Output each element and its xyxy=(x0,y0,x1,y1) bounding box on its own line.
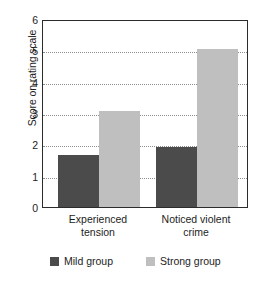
legend-label: Strong group xyxy=(160,255,221,267)
y-tick-label-0: 0 xyxy=(24,203,38,213)
y-tick-label-4: 4 xyxy=(24,78,38,88)
y-tick-label-1: 1 xyxy=(24,172,38,182)
y-tick-label-6: 6 xyxy=(24,15,38,25)
legend-swatch-strong-icon xyxy=(146,257,155,266)
bar-mild-group-1 xyxy=(58,155,99,207)
x-category-label-line: Experienced xyxy=(48,213,148,226)
y-axis-tick-labels: 0123456 xyxy=(22,20,38,208)
bar-chart-figure: Score on rating scale 0123456 Experience… xyxy=(0,0,264,281)
x-category-label-line: tension xyxy=(48,226,148,239)
legend-swatch-mild-icon xyxy=(50,257,59,266)
x-category-label-2: Noticed violentcrime xyxy=(146,213,246,238)
x-category-label-line: Noticed violent xyxy=(146,213,246,226)
legend-item-mild[interactable]: Mild group xyxy=(50,255,113,267)
y-tick-label-5: 5 xyxy=(24,46,38,56)
x-category-label-line: crime xyxy=(146,226,246,239)
bar-mild-group-2 xyxy=(156,147,197,207)
bar-strong-group-2 xyxy=(197,49,238,207)
x-category-label-1: Experiencedtension xyxy=(48,213,148,238)
plot-area xyxy=(42,20,248,208)
legend-label: Mild group xyxy=(64,255,113,267)
y-tick-label-3: 3 xyxy=(24,109,38,119)
y-tick-label-2: 2 xyxy=(24,140,38,150)
legend-item-strong[interactable]: Strong group xyxy=(146,255,221,267)
bar-strong-group-1 xyxy=(99,111,140,207)
chart-legend: Mild groupStrong group xyxy=(42,255,248,271)
